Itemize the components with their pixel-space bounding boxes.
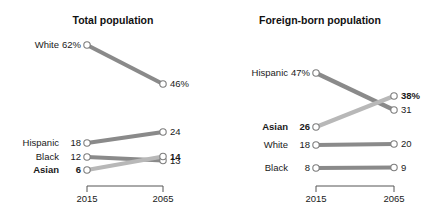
category-label-hispanic: Hispanic [252, 67, 289, 78]
value-label-hispanic-end: 31 [401, 104, 412, 115]
slope-line-hispanic [316, 73, 394, 110]
panel-total-population: Total populationWhite62%46%Hispanic1824B… [23, 14, 190, 204]
value-label-white-start: 18 [299, 139, 310, 150]
value-label-hispanic-start: 47% [291, 67, 311, 78]
marker-black-start [313, 165, 319, 171]
slopegraph-figure: Total populationWhite62%46%Hispanic1824B… [0, 0, 436, 220]
value-label-asian-start: 6 [76, 164, 81, 175]
axis-bracket [87, 186, 163, 192]
value-label-white-start: 62% [62, 39, 82, 50]
category-label-asian: Asian [262, 121, 288, 132]
value-label-asian-start: 26 [299, 121, 310, 132]
marker-hispanic-end [160, 129, 166, 135]
axis-year-start: 2015 [76, 193, 97, 204]
slope-line-white [316, 144, 394, 145]
marker-black-end [391, 164, 397, 170]
marker-white-start [84, 42, 90, 48]
value-label-asian-end: 14 [170, 151, 181, 162]
marker-hispanic-start [313, 70, 319, 76]
marker-black-start [84, 154, 90, 160]
axis-year-start: 2015 [305, 193, 326, 204]
panel-title: Foreign-born population [259, 14, 381, 26]
category-label-black: Black [36, 151, 59, 162]
category-label-white: White [35, 39, 59, 50]
value-label-hispanic-start: 18 [70, 137, 81, 148]
marker-white-start [313, 142, 319, 148]
value-label-white-end: 20 [401, 138, 412, 149]
marker-hispanic-start [84, 140, 90, 146]
slope-line-black [316, 168, 394, 169]
slopegraph-canvas: Total populationWhite62%46%Hispanic1824B… [0, 0, 436, 220]
panel-foreign-born-population: Foreign-born populationHispanic47%31Asia… [252, 14, 421, 204]
category-label-white: White [264, 139, 288, 150]
slope-line-hispanic [87, 132, 163, 143]
panel-title: Total population [73, 14, 154, 26]
value-label-black-start: 12 [70, 151, 81, 162]
axis-bracket [316, 186, 394, 192]
value-label-hispanic-end: 24 [170, 126, 181, 137]
marker-white-end [160, 81, 166, 87]
category-label-asian: Asian [33, 164, 59, 175]
value-label-white-end: 46% [170, 78, 190, 89]
marker-asian-start [84, 167, 90, 173]
slope-line-asian [316, 96, 394, 127]
axis-year-end: 2065 [383, 193, 404, 204]
marker-hispanic-end [391, 107, 397, 113]
value-label-black-end: 9 [401, 162, 406, 173]
marker-asian-end [391, 93, 397, 99]
marker-asian-start [313, 124, 319, 130]
axis-year-end: 2065 [152, 193, 173, 204]
slope-line-white [87, 45, 163, 84]
marker-asian-end [160, 153, 166, 159]
value-label-black-start: 8 [305, 162, 310, 173]
value-label-asian-end: 38% [401, 90, 421, 101]
marker-white-end [391, 141, 397, 147]
category-label-hispanic: Hispanic [23, 137, 60, 148]
category-label-black: Black [265, 162, 288, 173]
